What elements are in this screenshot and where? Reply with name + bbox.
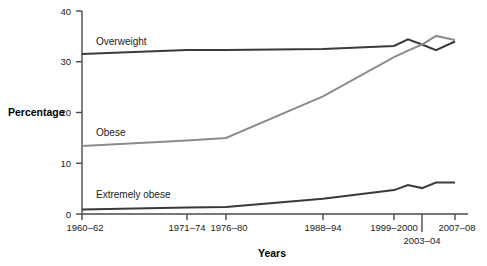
x-tick-label-1988-94: 1988–94	[305, 222, 342, 233]
x-tick-label-1976-80: 1976–80	[211, 222, 248, 233]
x-tick-label-2003-04: 2003–04	[404, 235, 441, 246]
x-tick-label-2007-08: 2007–08	[439, 222, 476, 233]
y-axis-title: Percentage	[8, 106, 65, 118]
series-label-obese: Obese	[96, 127, 126, 138]
y-tick-label-30: 30	[60, 56, 71, 67]
x-tick-label-1960-62: 1960–62	[67, 222, 104, 233]
y-tick-label-10: 10	[60, 158, 71, 169]
x-tick-label-1971-74: 1971–74	[169, 222, 206, 233]
x-tick-label-1999-2000: 1999–2000	[370, 222, 418, 233]
line-chart: 40 30 20 10 0 1960–62 1971–74 1976–80 19…	[0, 0, 487, 266]
y-axis-ticks	[76, 11, 82, 214]
y-tick-label-0: 0	[66, 209, 71, 220]
x-axis-title: Years	[258, 247, 286, 259]
chart-container: 40 30 20 10 0 1960–62 1971–74 1976–80 19…	[0, 0, 487, 266]
y-tick-label-40: 40	[60, 6, 71, 17]
series-label-overweight: Overweight	[96, 36, 147, 47]
series-label-extremely-obese: Extremely obese	[96, 189, 171, 200]
